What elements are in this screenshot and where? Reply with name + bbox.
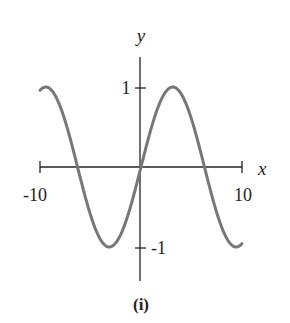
- x-max-label: 10: [234, 185, 252, 205]
- y-max-label: 1: [122, 78, 131, 98]
- y-axis-label: y: [135, 25, 146, 46]
- chart-canvas: y x -10 10 1 -1 (i): [0, 0, 290, 323]
- x-axis-label: x: [257, 158, 267, 179]
- x-min-label: -10: [23, 185, 47, 205]
- figure-caption: (i): [133, 295, 149, 314]
- y-min-label: -1: [151, 238, 166, 258]
